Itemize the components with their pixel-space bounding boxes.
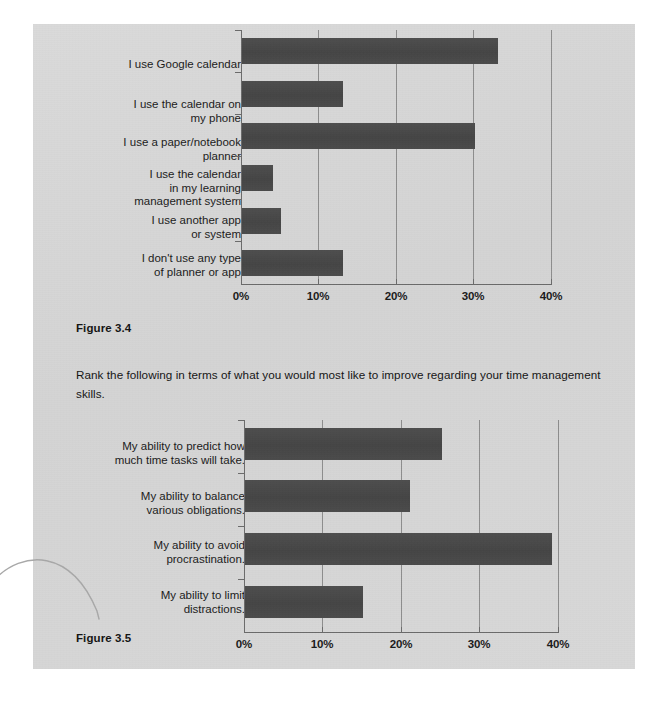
chart2-xtick-label-4: 40%	[538, 638, 578, 650]
chart1-y-axis	[241, 30, 242, 284]
chart2-bar-1	[245, 480, 410, 512]
chart1-xtick-2	[396, 279, 397, 285]
chart2-y-tick-3	[238, 579, 244, 580]
chart1-bar-4	[242, 208, 281, 234]
chart1-y-tick-0	[235, 30, 241, 31]
chart2-bar-2	[245, 533, 552, 565]
chart2-xtick-4	[558, 627, 559, 633]
chart2-bar-0	[245, 428, 442, 460]
chart2-xtick-1	[322, 627, 323, 633]
document-page: I use Google calendar I use the calendar…	[33, 24, 635, 669]
chart2-xtick-2	[401, 627, 402, 633]
chart1-bar-5	[242, 250, 343, 276]
chart2-xtick-label-2: 20%	[381, 638, 421, 650]
chart2-xtick-3	[479, 627, 480, 633]
chart2-gridline-40	[558, 420, 559, 632]
chart1-y-tick-1	[235, 72, 241, 73]
chart1-xtick-label-0: 0%	[221, 290, 261, 302]
chart2-xtick-0	[244, 627, 245, 633]
chart1-bar-3	[242, 165, 273, 191]
chart2-xtick-label-1: 10%	[302, 638, 342, 650]
chart1-y-tick-5	[235, 241, 241, 242]
chart1-xtick-3	[473, 279, 474, 285]
chart1-xtick-1	[318, 279, 319, 285]
chart1-gridline-10	[318, 30, 319, 284]
chart1-bar-0	[242, 38, 498, 64]
chart1-gridline-20	[396, 30, 397, 284]
chart1-xtick-label-1: 10%	[298, 290, 338, 302]
chart1-xtick-label-2: 20%	[376, 290, 416, 302]
chart1-gridline-40	[551, 30, 552, 284]
chart2-xtick-label-3: 30%	[459, 638, 499, 650]
chart1-xtick-label-3: 30%	[453, 290, 493, 302]
chart1-bar-2	[242, 123, 475, 149]
chart2-gridline-30	[479, 420, 480, 632]
chart1-y-tick-2	[235, 114, 241, 115]
chart2-plot-area	[33, 414, 635, 659]
chart1-xtick-0	[241, 279, 242, 285]
chart2-bar-3	[245, 586, 363, 618]
chart1-bar-1	[242, 81, 343, 107]
chart1-y-tick-4	[235, 199, 241, 200]
figure-3-5-caption: Figure 3.5	[76, 632, 131, 644]
chart1-xtick-label-4: 40%	[531, 290, 571, 302]
chart1-xtick-4	[551, 279, 552, 285]
figure-3-5-chart: My ability to predict how much time task…	[33, 414, 635, 659]
figure-3-4-chart: I use Google calendar I use the calendar…	[33, 24, 635, 309]
chart2-xtick-label-0: 0%	[224, 638, 264, 650]
chart1-gridline-30	[473, 30, 474, 284]
chart2-y-tick-0	[238, 420, 244, 421]
chart2-y-tick-2	[238, 526, 244, 527]
figure-3-4-caption: Figure 3.4	[76, 322, 131, 334]
chart2-y-tick-1	[238, 473, 244, 474]
prompt-text: Rank the following in terms of what you …	[76, 365, 606, 403]
chart1-plot-area	[33, 24, 635, 309]
chart1-y-tick-3	[235, 156, 241, 157]
